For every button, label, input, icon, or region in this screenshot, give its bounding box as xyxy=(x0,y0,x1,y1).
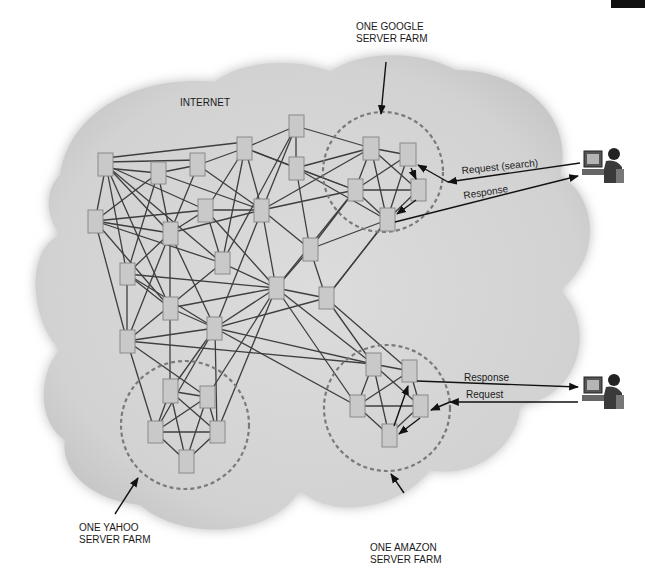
user-at-computer-icon xyxy=(582,148,624,183)
google-label-line1: ONE GOOGLE xyxy=(356,21,424,32)
yahoo-label-line1: ONE YAHOO xyxy=(79,522,139,533)
request-bottom-label: Request xyxy=(466,389,503,400)
amazon-label-line2: SERVER FARM xyxy=(370,554,442,565)
amazon-label-line1: ONE AMAZON xyxy=(370,542,437,553)
user-at-computer-icon xyxy=(582,374,624,409)
yahoo-label-line2: SERVER FARM xyxy=(79,534,151,545)
google-label-line2: SERVER FARM xyxy=(356,33,428,44)
internet-cloud xyxy=(36,55,590,529)
response-bottom-label: Response xyxy=(464,372,509,383)
internet-diagram: INTERNET ONE GOOGLE SERVER FARM ONE YAHO… xyxy=(0,0,645,578)
internet-label: INTERNET xyxy=(180,97,230,108)
